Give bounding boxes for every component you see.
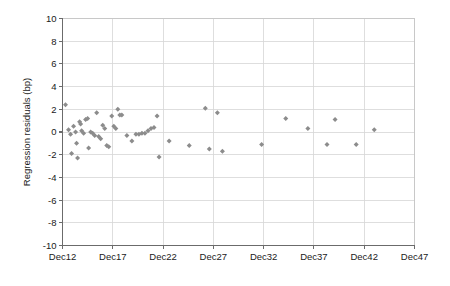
x-tick-label: Dec17 <box>99 251 126 262</box>
regression-residuals-scatter-chart: 1086420-2-4-6-8-10 Dec12Dec17Dec22Dec27D… <box>0 0 450 286</box>
x-tick-label: Dec32 <box>250 251 277 262</box>
y-tick-label: 2 <box>51 104 56 115</box>
y-tick-label: 6 <box>51 58 56 69</box>
y-tick-label: -10 <box>43 240 57 251</box>
y-tick-label: 4 <box>51 81 56 92</box>
x-tick-label: Dec37 <box>300 251 327 262</box>
y-tick-label: 0 <box>51 126 56 137</box>
y-tick-label: -6 <box>48 195 56 206</box>
y-tick-label: -4 <box>48 172 56 183</box>
y-tick-label: 10 <box>46 13 57 24</box>
x-axis-tick-labels: Dec12Dec17Dec22Dec27Dec32Dec37Dec42Dec47 <box>49 251 428 262</box>
y-axis <box>59 19 63 246</box>
x-tick-label: Dec22 <box>149 251 176 262</box>
x-tick-label: Dec42 <box>350 251 377 262</box>
y-axis-tick-labels: 1086420-2-4-6-8-10 <box>43 13 57 251</box>
y-tick-label: 8 <box>51 36 56 47</box>
x-tick-label: Dec47 <box>401 251 428 262</box>
chart-canvas: 1086420-2-4-6-8-10 Dec12Dec17Dec22Dec27D… <box>0 0 450 286</box>
x-tick-label: Dec27 <box>200 251 227 262</box>
y-tick-label: -8 <box>48 217 56 228</box>
y-tick-label: -2 <box>48 149 56 160</box>
y-axis-title: Regression residuals (bp) <box>21 78 32 186</box>
x-tick-label: Dec12 <box>49 251 76 262</box>
x-axis <box>63 246 415 250</box>
